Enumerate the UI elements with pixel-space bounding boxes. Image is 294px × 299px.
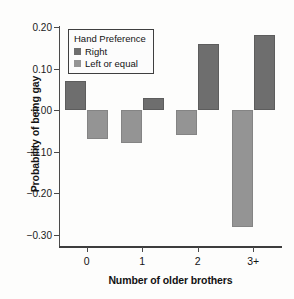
y-tick-label: −0.10 — [18, 146, 52, 157]
bar-right-3plus — [254, 35, 275, 110]
x-tick-mark — [253, 247, 254, 252]
chart-figure: Probability of being gay 0.200.100.00−0.… — [0, 0, 294, 299]
legend-label-right: Right — [85, 46, 107, 57]
y-tick-mark — [54, 27, 59, 28]
y-tick-label: −0.20 — [18, 188, 52, 199]
bar-left-0 — [87, 110, 108, 139]
x-tick-label-2: 2 — [178, 255, 218, 267]
legend-label-left-or-equal: Left or equal — [85, 58, 138, 69]
bar-left-3plus — [232, 110, 253, 226]
y-tick-label: −0.30 — [18, 230, 52, 241]
legend: Hand Preference Right Left or equal — [68, 29, 154, 74]
x-axis-title: Number of older brothers — [59, 274, 282, 286]
x-tick-label-1: 1 — [122, 255, 162, 267]
y-tick-mark — [54, 69, 59, 70]
bar-right-2 — [198, 44, 219, 111]
y-tick-label: 0.20 — [18, 22, 52, 33]
bar-left-2 — [176, 110, 197, 135]
bar-right-1 — [143, 98, 164, 110]
y-tick-label: 0.10 — [18, 63, 52, 74]
x-tick-label-3plus: 3+ — [233, 255, 273, 267]
x-tick-label-0: 0 — [67, 255, 107, 267]
x-tick-mark — [87, 247, 88, 252]
y-tick-mark — [54, 235, 59, 236]
legend-item-right: Right — [74, 46, 146, 57]
bar-left-1 — [121, 110, 142, 143]
legend-swatch-right-icon — [74, 48, 81, 55]
y-tick-label: 0.00 — [18, 105, 52, 116]
y-tick-mark — [54, 152, 59, 153]
legend-swatch-left-icon — [74, 60, 81, 67]
legend-item-left-or-equal: Left or equal — [74, 58, 146, 69]
legend-title: Hand Preference — [74, 33, 146, 44]
y-axis-tick-labels: 0.200.100.00−0.10−0.20−0.30 — [18, 0, 52, 299]
x-tick-mark — [198, 247, 199, 252]
x-tick-mark — [142, 247, 143, 252]
y-tick-mark — [54, 110, 59, 111]
y-tick-mark — [54, 193, 59, 194]
bar-right-0 — [65, 81, 86, 110]
